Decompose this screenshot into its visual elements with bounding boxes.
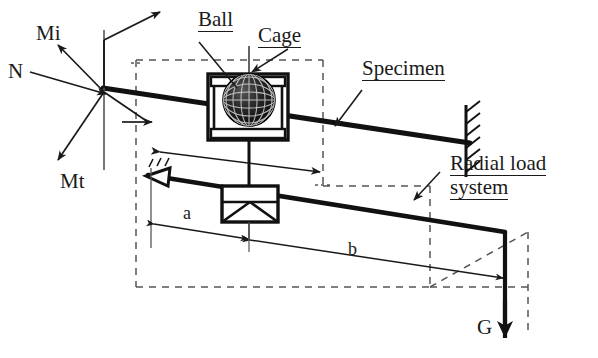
label-ball: Ball xyxy=(198,8,233,32)
label-dimension-b: b xyxy=(348,240,357,259)
label-moment-inertia: Mi xyxy=(36,22,61,45)
label-radial-load-line1: Radial load xyxy=(450,152,546,176)
fulcrum-box xyxy=(222,186,278,222)
lateral-motion-arrow xyxy=(160,152,320,172)
dimension-line-b xyxy=(250,240,503,278)
dimension-line-a xyxy=(154,224,248,239)
label-moment-torque: Mt xyxy=(60,170,85,193)
label-normal-force: N xyxy=(8,60,23,83)
ball-sphere xyxy=(223,74,275,126)
label-dimension-a: a xyxy=(183,204,191,223)
leader-line-specimen xyxy=(335,90,362,126)
vector-Mi xyxy=(58,45,104,92)
label-cage: Cage xyxy=(258,24,301,48)
vector-Mt xyxy=(58,92,104,160)
label-weight-G: G xyxy=(477,316,492,339)
pivot-support xyxy=(146,158,170,248)
vector-axial-up xyxy=(104,12,160,88)
label-specimen: Specimen xyxy=(362,57,445,81)
figure-canvas: Mi N Mt Ball Cage Specimen Radial load s… xyxy=(0,0,598,358)
label-radial-load-line2: system xyxy=(450,176,508,200)
